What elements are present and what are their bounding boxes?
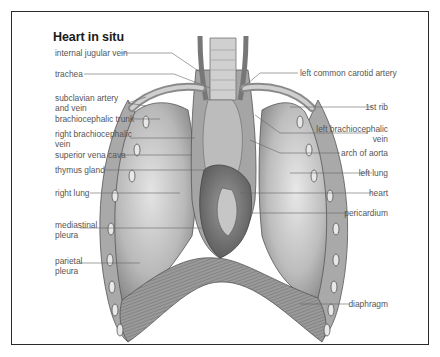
label-arch-of-aorta: arch of aorta (341, 148, 388, 158)
label-subclavian-artery-and-vein: subclavian artery and vein (55, 93, 118, 113)
label-left-brachiocephalic-vein: left brachiocephalic vein (316, 124, 388, 144)
label-right-lung: right lung (55, 188, 89, 198)
label-right-brachiocephalic-vein: right brachiocephalic vein (55, 129, 132, 149)
label-brachiocephalic-trunk: brachiocephalic trunk (55, 114, 134, 124)
label-internal-jugular-vein: internal jugular vein (55, 48, 128, 58)
label-diaphragm: diaphragm (348, 299, 388, 309)
label-pericardium: pericardium (344, 208, 388, 218)
label-1st-rib: 1st rib (365, 102, 388, 112)
label-parietal-pleura: parietal pleura (55, 256, 82, 276)
label-thymus-gland: thymus gland (55, 165, 105, 175)
figure-title: Heart in situ (53, 30, 124, 44)
label-mediastinal-pleura: mediastinal pleura (55, 220, 97, 240)
trachea-shape (210, 38, 236, 100)
label-left-lung: left lung (359, 168, 388, 178)
label-heart: heart (369, 188, 388, 198)
label-left-common-carotid-artery: left common carotid artery (300, 68, 397, 78)
label-trachea: trachea (55, 69, 83, 79)
label-superior-vena-cava: superior vena cava (55, 150, 126, 160)
